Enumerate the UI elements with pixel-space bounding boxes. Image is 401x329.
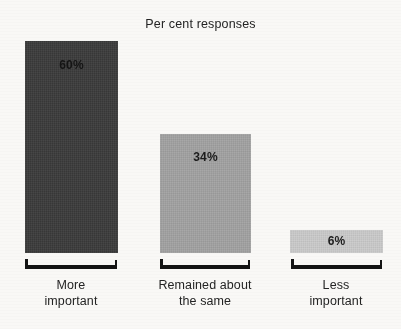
category-label-more-important: More important	[12, 277, 130, 309]
bar-chart: Per cent responses 60% 34% 6%	[0, 0, 401, 329]
bar-value-label: 60%	[25, 58, 118, 72]
category-label-line: the same	[140, 293, 270, 309]
category-bracket	[291, 259, 382, 269]
bar-remained-about-the-same: 34%	[160, 134, 251, 253]
category-label-line: Remained about	[140, 277, 270, 293]
category-bracket	[25, 259, 117, 269]
category-label-line: important	[277, 293, 395, 309]
bracket-rail	[291, 265, 382, 269]
category-bracket	[160, 259, 250, 269]
bracket-tick-right-icon	[380, 260, 382, 269]
bracket-tick-right-icon	[248, 260, 250, 269]
plot-area: 60% 34% 6% More	[0, 0, 401, 329]
bracket-rail	[25, 265, 117, 269]
bracket-tick-right-icon	[115, 260, 117, 269]
bracket-rail	[160, 265, 250, 269]
bar-value-label: 6%	[290, 234, 383, 248]
category-label-less-important: Less important	[277, 277, 395, 309]
category-label-line: Less	[277, 277, 395, 293]
bar-more-important: 60%	[25, 41, 118, 253]
category-label-remained-about-the-same: Remained about the same	[140, 277, 270, 309]
bar-value-label: 34%	[160, 150, 251, 164]
category-label-line: More	[12, 277, 130, 293]
category-label-line: important	[12, 293, 130, 309]
bar-texture	[25, 41, 118, 253]
bar-less-important: 6%	[290, 230, 383, 253]
